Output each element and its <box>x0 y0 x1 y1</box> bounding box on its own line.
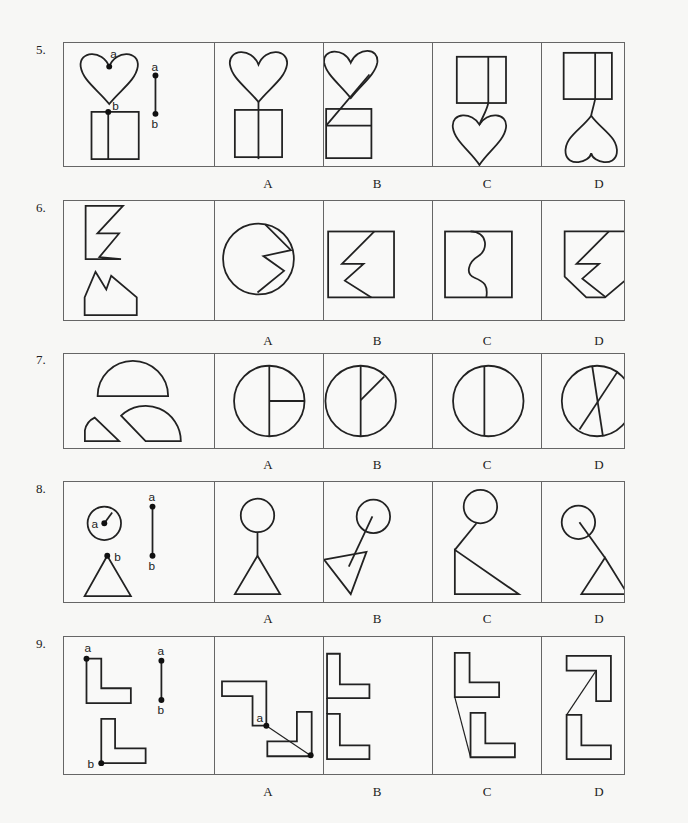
option-label-b: B <box>367 611 387 627</box>
option-c-figure <box>433 201 542 320</box>
option-label-a: A <box>258 176 278 192</box>
option-label-d: D <box>589 784 609 800</box>
question-number-9: 9. <box>36 636 46 652</box>
option-label-a: A <box>258 333 278 349</box>
option-label-b: B <box>367 333 387 349</box>
option-b-figure <box>324 637 432 774</box>
l-shapes-segment-figure: a b a b <box>64 637 214 774</box>
option-c-figure <box>433 482 542 602</box>
q9-prompt-figure: a b a b <box>64 637 214 774</box>
svg-text:a: a <box>92 517 99 531</box>
option-label-d: D <box>589 333 609 349</box>
q7-option-c[interactable] <box>432 354 542 448</box>
option-a-figure <box>215 43 323 166</box>
option-label-c: C <box>477 611 497 627</box>
heart-square-segment-figure: a b a b <box>64 43 214 166</box>
q8-prompt-figure: a b a b <box>64 482 214 602</box>
option-label-a: A <box>258 784 278 800</box>
option-label-c: C <box>477 176 497 192</box>
q6-option-d[interactable] <box>541 201 624 320</box>
option-label-d: D <box>589 457 609 473</box>
circle-triangle-segment-figure: a b a b <box>64 482 214 602</box>
svg-text:b: b <box>152 117 159 131</box>
q7-option-a[interactable] <box>214 354 323 448</box>
svg-text:b: b <box>87 757 94 771</box>
q8-option-a[interactable] <box>214 482 323 602</box>
circle-pieces-figure <box>64 354 214 448</box>
q6-prompt-figure <box>64 201 214 320</box>
q8-option-d[interactable] <box>541 482 624 602</box>
option-d-figure <box>542 354 624 448</box>
q5-option-c[interactable] <box>432 43 542 166</box>
option-d-figure <box>542 201 624 320</box>
option-label-b: B <box>367 176 387 192</box>
option-label-c: C <box>477 333 497 349</box>
svg-text:b: b <box>112 99 119 113</box>
option-b-figure <box>324 201 432 320</box>
option-d-figure <box>542 43 624 166</box>
option-d-figure <box>542 482 624 602</box>
question-7-row <box>63 353 625 449</box>
option-a-figure <box>215 482 323 602</box>
svg-text:b: b <box>114 550 121 564</box>
q9-option-c[interactable] <box>432 637 542 774</box>
question-number-5: 5. <box>36 42 46 58</box>
q6-option-c[interactable] <box>432 201 542 320</box>
option-a-figure <box>215 201 323 320</box>
q7-prompt-figure <box>64 354 214 448</box>
option-label-c: C <box>477 784 497 800</box>
svg-text:b: b <box>149 559 156 573</box>
question-6-row <box>63 200 625 321</box>
option-label-a: A <box>258 611 278 627</box>
option-a-figure: a <box>215 637 323 774</box>
svg-text:b: b <box>157 703 164 717</box>
q9-option-b[interactable] <box>323 637 432 774</box>
q5-prompt-figure: a b a b <box>64 43 214 166</box>
q8-option-b[interactable] <box>323 482 432 602</box>
svg-text:a: a <box>149 490 156 504</box>
option-label-c: C <box>477 457 497 473</box>
option-c-figure <box>433 43 542 166</box>
option-b-figure <box>324 354 432 448</box>
option-b-figure <box>324 482 432 602</box>
question-8-row: a b a b <box>63 481 625 603</box>
option-b-figure <box>324 43 432 166</box>
q5-option-b[interactable] <box>323 43 432 166</box>
option-d-figure <box>542 637 624 774</box>
question-number-8: 8. <box>36 481 46 497</box>
svg-text:a: a <box>157 644 164 658</box>
q8-option-c[interactable] <box>432 482 542 602</box>
q6-option-b[interactable] <box>323 201 432 320</box>
option-label-d: D <box>589 611 609 627</box>
option-a-figure <box>215 354 323 448</box>
q7-option-b[interactable] <box>323 354 432 448</box>
question-9-row: a b a b a <box>63 636 625 775</box>
q7-option-d[interactable] <box>541 354 624 448</box>
svg-text:a: a <box>257 711 264 725</box>
option-c-figure <box>433 354 542 448</box>
question-5-row: a b a b <box>63 42 625 167</box>
svg-text:a: a <box>152 60 159 74</box>
q9-option-a[interactable]: a <box>214 637 323 774</box>
option-c-figure <box>433 637 542 774</box>
question-number-6: 6. <box>36 200 46 216</box>
zigzag-pieces-figure <box>64 201 214 320</box>
q5-option-a[interactable] <box>214 43 323 166</box>
q6-option-a[interactable] <box>214 201 323 320</box>
option-label-d: D <box>589 176 609 192</box>
svg-text:a: a <box>85 641 92 655</box>
q5-option-d[interactable] <box>541 43 624 166</box>
question-number-7: 7. <box>36 352 46 368</box>
svg-text:a: a <box>110 47 117 61</box>
q9-option-d[interactable] <box>541 637 624 774</box>
option-label-b: B <box>367 784 387 800</box>
option-label-a: A <box>258 457 278 473</box>
option-label-b: B <box>367 457 387 473</box>
